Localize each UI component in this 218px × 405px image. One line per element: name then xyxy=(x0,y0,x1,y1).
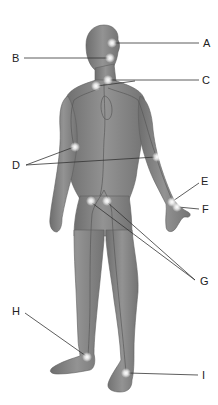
label-a: A xyxy=(203,38,210,49)
pulse-point-h xyxy=(82,352,92,362)
pulse-point-c xyxy=(91,81,101,91)
human-body-figure xyxy=(0,0,218,405)
label-d: D xyxy=(12,160,20,171)
label-g: G xyxy=(200,276,209,287)
pulse-point-a xyxy=(107,38,117,48)
pulse-point-c xyxy=(103,75,113,85)
pulse-point-g xyxy=(86,196,96,206)
pulse-point-b xyxy=(105,53,115,63)
label-h: H xyxy=(12,306,20,317)
pulse-points-diagram: A B C D E F G H I xyxy=(0,0,218,405)
label-c: C xyxy=(202,75,210,86)
label-b: B xyxy=(12,53,19,64)
leader-line-h xyxy=(25,313,86,356)
label-e: E xyxy=(201,176,208,187)
pulse-point-d xyxy=(152,152,162,162)
leader-line-e xyxy=(173,183,199,201)
label-i: I xyxy=(202,370,205,381)
label-f: F xyxy=(202,204,209,215)
pulse-point-d xyxy=(70,142,80,152)
leader-line-i xyxy=(128,373,198,375)
pulse-point-i xyxy=(121,368,131,378)
pulse-point-g xyxy=(102,196,112,206)
pulse-point-f xyxy=(172,202,182,212)
